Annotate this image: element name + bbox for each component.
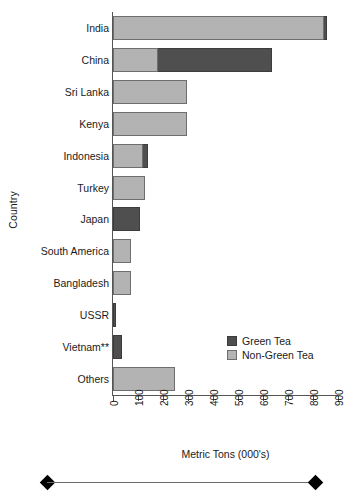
x-axis-tick-label-text: 100 bbox=[134, 389, 145, 406]
bar-row bbox=[113, 112, 187, 136]
x-axis-tick-label-text: 600 bbox=[259, 389, 270, 406]
legend-item: Non-Green Tea bbox=[227, 348, 314, 362]
bar-segment-non-green-tea bbox=[113, 144, 143, 168]
y-axis-tick-label: Kenya bbox=[3, 118, 109, 130]
bar-segment-non-green-tea bbox=[113, 271, 131, 295]
legend-swatch-nongreen bbox=[227, 350, 237, 360]
y-axis-tick-label: Sri Lanka bbox=[3, 86, 109, 98]
x-axis-tick-label: 900 bbox=[320, 404, 356, 418]
legend-swatch-green bbox=[227, 336, 237, 346]
bar-segment-green-tea bbox=[158, 48, 272, 72]
bar-row bbox=[113, 80, 187, 104]
legend-item: Green Tea bbox=[227, 334, 314, 348]
x-axis-tick-label-text: 400 bbox=[209, 389, 220, 406]
legend-label: Non-Green Tea bbox=[242, 348, 314, 362]
y-axis-tick-label: India bbox=[3, 22, 109, 34]
y-axis-category-labels: IndiaChinaSri LankaKenyaIndonesiaTurkeyJ… bbox=[0, 12, 109, 395]
bar-segment-non-green-tea bbox=[113, 48, 158, 72]
y-axis-tick-label: USSR bbox=[3, 309, 109, 321]
bar-row bbox=[113, 144, 148, 168]
y-axis-tick-label: Japan bbox=[3, 213, 109, 225]
bar-row bbox=[113, 207, 140, 231]
bar-row bbox=[113, 303, 116, 327]
bar-row bbox=[113, 239, 131, 263]
bar-row bbox=[113, 367, 175, 391]
y-axis-tick-label: Bangladesh bbox=[3, 277, 109, 289]
y-axis-tick-label: Others bbox=[3, 373, 109, 385]
bar-row bbox=[113, 176, 145, 200]
tea-production-bar-chart: Country IndiaChinaSri LankaKenyaIndonesi… bbox=[0, 0, 362, 496]
bar-row bbox=[113, 16, 327, 40]
x-axis-tick-label-text: 900 bbox=[334, 389, 345, 406]
bar-row bbox=[113, 271, 131, 295]
bar-segment-green-tea bbox=[113, 335, 122, 359]
x-axis-tick-label-text: 500 bbox=[234, 389, 245, 406]
y-axis-tick-label: Turkey bbox=[3, 182, 109, 194]
y-axis-tick-label: Vietnam** bbox=[3, 341, 109, 353]
diamond-marker-right bbox=[308, 475, 324, 491]
bar-row bbox=[113, 48, 272, 72]
bar-segment-non-green-tea bbox=[113, 367, 175, 391]
decorative-rule bbox=[47, 482, 315, 483]
bar-segment-green-tea bbox=[113, 207, 140, 231]
bar-segment-green-tea bbox=[143, 144, 148, 168]
y-axis-tick-label: Indonesia bbox=[3, 150, 109, 162]
chart-legend: Green TeaNon-Green Tea bbox=[227, 334, 314, 362]
x-axis-tick-label-text: 300 bbox=[184, 389, 195, 406]
bar-segment-non-green-tea bbox=[113, 16, 324, 40]
legend-label: Green Tea bbox=[242, 334, 291, 348]
bar-segment-non-green-tea bbox=[113, 112, 187, 136]
x-axis-tick-label-text: 200 bbox=[159, 389, 170, 406]
bar-segment-non-green-tea bbox=[113, 80, 187, 104]
bar-segment-green-tea bbox=[113, 303, 116, 327]
x-axis-line bbox=[112, 395, 338, 396]
bar-segment-green-tea bbox=[324, 16, 327, 40]
y-axis-tick-label: China bbox=[3, 54, 109, 66]
bar-row bbox=[113, 335, 122, 359]
x-axis-tick-label-text: 700 bbox=[284, 389, 295, 406]
bar-segment-non-green-tea bbox=[113, 176, 145, 200]
x-axis-tick-label-text: 0 bbox=[109, 400, 120, 406]
bar-segment-non-green-tea bbox=[113, 239, 131, 263]
x-axis-tick-label-text: 800 bbox=[309, 389, 320, 406]
x-axis-title: Metric Tons (000's) bbox=[113, 448, 338, 460]
y-axis-tick-label: South America bbox=[3, 245, 109, 257]
